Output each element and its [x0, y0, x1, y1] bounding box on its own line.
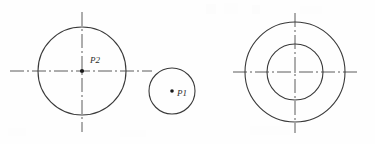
scan-artifact	[300, 6, 322, 14]
label-p2-text: P2	[89, 55, 100, 65]
center-mark-p1-dot	[170, 89, 174, 93]
drawing-svg: P2 P1	[0, 0, 375, 144]
scan-artifact	[252, 5, 260, 14]
scan-artifact	[224, 3, 238, 14]
left-panel-group: P2 P1	[10, 12, 195, 132]
scan-artifact	[206, 4, 216, 14]
center-mark-p2-dot	[80, 69, 84, 73]
right-panel-group	[233, 13, 358, 133]
scan-artifact	[120, 130, 146, 137]
label-p1-text: P1	[176, 88, 187, 98]
scan-artifact	[8, 128, 26, 136]
scan-artifact	[250, 126, 290, 135]
technical-drawing-figure: P2 P1	[0, 0, 375, 144]
